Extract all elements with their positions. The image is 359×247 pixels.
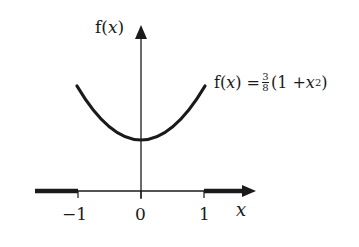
ylabel-f: f( [95, 17, 108, 37]
ylabel-var: x [108, 17, 118, 37]
y-axis-label: f(x) [95, 17, 124, 37]
eq-paren-close: ) [321, 73, 327, 92]
eq-equals: ) = [235, 73, 260, 92]
eq-paren-open: (1 + [271, 73, 306, 92]
ylabel-close: ) [118, 17, 125, 37]
eq-frac-den: 8 [262, 83, 268, 93]
eq-var: x [226, 73, 235, 92]
tick-label-0: 0 [135, 204, 146, 224]
function-equation: f(x) = 3 8 (1 + x2) [214, 72, 328, 93]
eq-f: f( [214, 73, 226, 92]
y-axis-arrow-icon [135, 25, 147, 39]
eq-fraction: 3 8 [262, 72, 269, 93]
function-plot [0, 0, 359, 247]
tick-label-1: 1 [199, 204, 210, 224]
x-axis-label: x [236, 199, 246, 220]
eq-frac-num: 3 [262, 72, 268, 82]
tick-label-neg1: −1 [62, 204, 87, 224]
eq-var2: x [306, 73, 315, 92]
